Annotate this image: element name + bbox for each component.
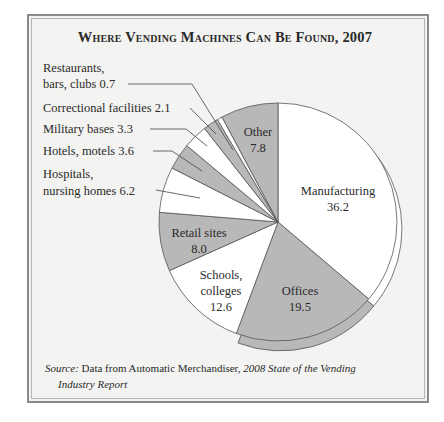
label-military: Military bases 3.3 <box>43 122 133 136</box>
source-prefix: Source: <box>45 362 79 374</box>
label-hospitals-line2: nursing homes 6.2 <box>43 184 135 198</box>
label-restaurants-line2: bars, clubs 0.7 <box>43 77 115 91</box>
label-hotels: Hotels, motels 3.6 <box>43 144 134 158</box>
value-manufacturing: 36.2 <box>327 200 349 214</box>
label-other: Other <box>244 125 273 139</box>
source-title-line2: Industry Report <box>57 378 128 390</box>
pie-chart: Where Vending Machines Can Be Found, 200… <box>0 0 444 422</box>
label-correctional: Correctional facilities 2.1 <box>43 101 170 115</box>
label-retail: Retail sites <box>171 226 226 240</box>
label-manufacturing: Manufacturing <box>301 184 376 198</box>
value-other: 7.8 <box>250 141 266 155</box>
label-restaurants-line1: Restaurants, <box>43 61 104 75</box>
value-schools: 12.6 <box>210 300 232 314</box>
source-note: Source: Data from Automatic Merchandiser… <box>45 362 356 374</box>
source-title: 2008 State of the Vending <box>243 362 356 374</box>
label-hospitals-line1: Hospitals, <box>43 167 93 181</box>
source-text: Data from Automatic Merchandiser, <box>79 362 244 374</box>
label-offices: Offices <box>282 284 319 298</box>
label-schools-line2: colleges <box>201 284 242 298</box>
label-schools-line1: Schools, <box>200 268 243 282</box>
value-offices: 19.5 <box>289 300 311 314</box>
chart-title: Where Vending Machines Can Be Found, 200… <box>78 29 372 45</box>
value-retail: 8.0 <box>191 242 207 256</box>
